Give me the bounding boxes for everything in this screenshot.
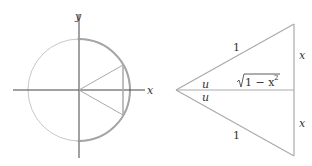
diagram-canvas: x y 1 1 u u x x 1 − x 2	[0, 0, 312, 166]
x-axis-label: x	[147, 84, 154, 97]
hypotenuse-top-label: 1	[233, 41, 240, 54]
hypotenuse-bottom-label: 1	[233, 129, 240, 142]
radius-lower	[79, 90, 123, 115]
angle-top-label: u	[202, 78, 209, 91]
radius-upper	[79, 65, 123, 90]
radicand: 1 − x	[245, 76, 275, 89]
top-intercept-point	[78, 38, 81, 41]
triangle-figure: 1 1 u u x x 1 − x 2	[176, 24, 306, 156]
side-bottom-label: x	[299, 117, 306, 130]
side-top-label: x	[299, 49, 306, 62]
exponent: 2	[274, 74, 278, 82]
unit-circle-figure: x y	[13, 10, 154, 158]
angle-bottom-label: u	[202, 91, 209, 104]
bottom-intercept-point	[78, 140, 81, 143]
middle-leg-label: 1 − x 2	[237, 74, 280, 89]
y-axis-label: y	[74, 10, 82, 23]
hypotenuse-lower	[176, 90, 294, 156]
